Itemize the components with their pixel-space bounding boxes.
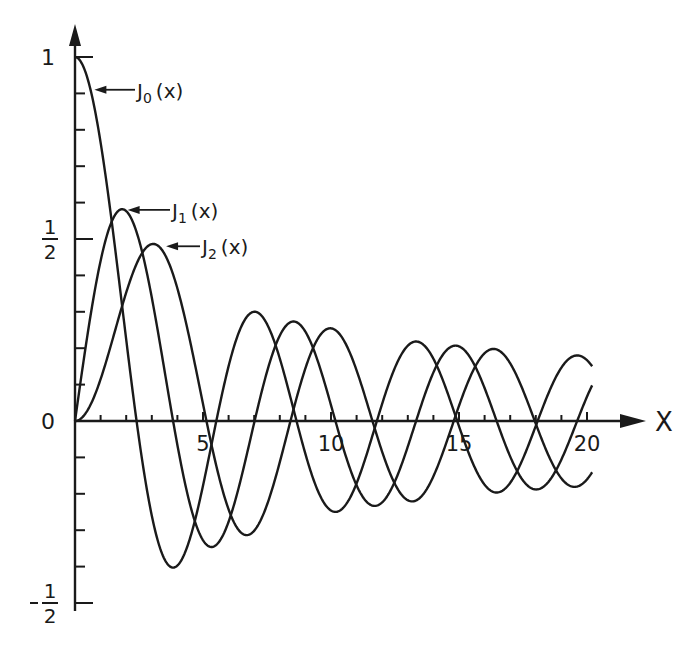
- svg-text:J0(x): J0(x): [135, 79, 183, 106]
- y-tick-label-half: 12: [42, 215, 58, 264]
- x-axis-arrow-icon: [620, 414, 646, 428]
- label-j0x: J0(x): [94, 79, 183, 106]
- x-axis-label: X: [655, 407, 673, 437]
- label-j1x: J1(x): [128, 199, 219, 226]
- svg-text:2: 2: [44, 240, 57, 264]
- series-labels: J0(x)J1(x)J2(x): [94, 79, 248, 263]
- svg-text:1: 1: [44, 579, 57, 603]
- svg-text:1: 1: [44, 215, 57, 239]
- svg-text:J1(x): J1(x): [170, 199, 218, 226]
- bessel-function-chart: X5101520112012 J0(x)J1(x)J2(x): [0, 0, 697, 645]
- svg-text:2: 2: [44, 604, 57, 628]
- svg-text:J2(x): J2(x): [200, 235, 248, 262]
- x-tick-label: 10: [318, 432, 345, 456]
- curve-j0x: [75, 57, 592, 568]
- y-tick-label: 0: [41, 409, 55, 434]
- y-tick-label-neg-half: 12: [30, 579, 58, 628]
- arrow-icon: [166, 242, 178, 250]
- curve-j2x: [75, 244, 592, 535]
- curve-j1x: [75, 209, 592, 547]
- label-j2x: J2(x): [166, 235, 248, 262]
- x-tick-label: 20: [574, 432, 601, 456]
- arrow-icon: [94, 86, 106, 94]
- arrow-icon: [128, 206, 140, 214]
- x-tick-label: 15: [446, 432, 473, 456]
- y-tick-label: 1: [41, 45, 55, 70]
- y-axis-arrow-icon: [69, 24, 81, 46]
- x-tick-label: 5: [196, 432, 209, 456]
- curves: [75, 57, 592, 568]
- axes: X5101520112012: [30, 24, 673, 628]
